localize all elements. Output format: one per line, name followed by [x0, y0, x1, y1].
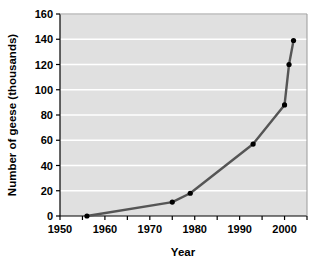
data-point — [282, 102, 287, 107]
x-tick-label: 1980 — [182, 223, 206, 235]
line-chart: 020406080100120140160 195019601970198019… — [0, 0, 323, 273]
data-point — [84, 213, 89, 218]
x-axis-tick-labels: 195019601970198019902000 — [48, 223, 297, 235]
y-tick-label: 120 — [35, 59, 53, 71]
y-tick-label: 60 — [41, 134, 53, 146]
x-tick-label: 1970 — [138, 223, 162, 235]
x-tick-label: 2000 — [272, 223, 296, 235]
y-tick-label: 20 — [41, 185, 53, 197]
y-tick-label: 80 — [41, 109, 53, 121]
x-tick-label: 1960 — [93, 223, 117, 235]
x-axis-title: Year — [171, 246, 196, 258]
x-tick-label: 1990 — [227, 223, 251, 235]
data-point — [251, 141, 256, 146]
y-axis-title: Number of geese (thousands) — [6, 34, 18, 196]
y-tick-label: 160 — [35, 8, 53, 20]
y-tick-label: 0 — [47, 210, 53, 222]
data-point — [188, 191, 193, 196]
data-point — [291, 38, 296, 43]
data-point — [170, 200, 175, 205]
y-tick-label: 140 — [35, 33, 53, 45]
y-tick-label: 100 — [35, 84, 53, 96]
y-tick-label: 40 — [41, 160, 53, 172]
chart-figure: 020406080100120140160 195019601970198019… — [0, 0, 323, 273]
x-axis-ticks — [60, 216, 307, 220]
data-point — [286, 62, 291, 67]
y-axis-tick-labels: 020406080100120140160 — [35, 8, 53, 222]
x-tick-label: 1950 — [48, 223, 72, 235]
